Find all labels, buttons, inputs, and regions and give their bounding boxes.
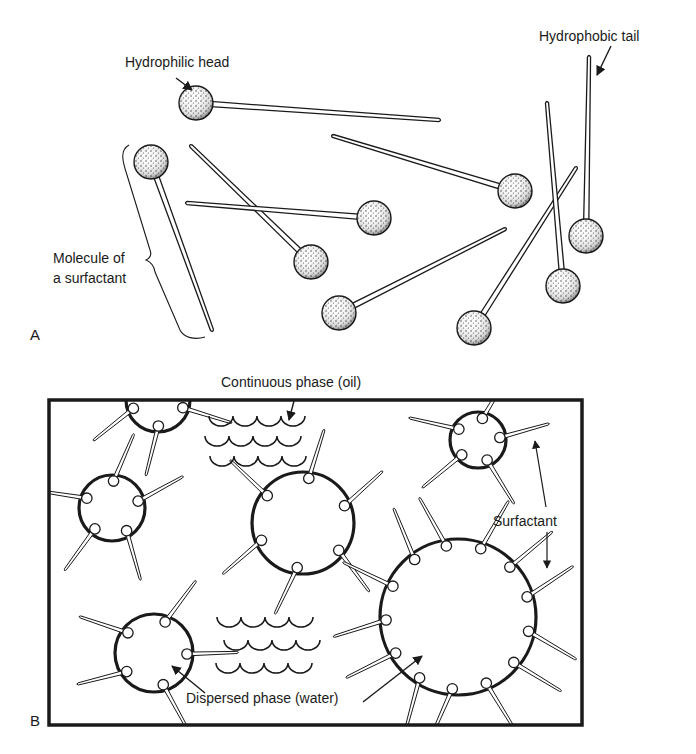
oil-wave-symbols-top	[205, 416, 306, 466]
hydrophobic-tail	[154, 175, 214, 331]
water-droplet	[222, 429, 382, 614]
surfactant-molecule	[64, 524, 100, 571]
hydrophobic-tail	[120, 333, 142, 376]
panel-a-molecules	[134, 56, 603, 345]
hydrophilic-head	[121, 526, 131, 536]
emulsion-interior	[36, 333, 577, 740]
hydrophilic-head	[133, 496, 143, 506]
surfactant-molecule	[179, 86, 440, 122]
hydrophilic-head	[390, 648, 400, 658]
panel-b-emulsion	[36, 333, 582, 740]
surfactant-arrow-up	[535, 441, 546, 507]
surfactant-molecule	[509, 657, 562, 691]
hydrophobic-tail	[211, 101, 441, 121]
hydrophobic-tail	[275, 571, 297, 614]
hydrophobic-tail	[175, 339, 206, 376]
surfactant-molecule	[334, 545, 370, 592]
hydrophobic-tail	[351, 228, 506, 309]
head-shading	[498, 174, 532, 208]
hydrophilic-head	[505, 562, 515, 572]
hydrophobic-tail	[167, 581, 196, 619]
hydrophilic-head	[523, 626, 533, 636]
hydrophilic-head	[123, 628, 133, 638]
hydrophilic-head	[82, 493, 92, 503]
hydrophilic-head	[256, 535, 266, 545]
hydrophilic-head	[178, 402, 188, 412]
head-shading	[569, 219, 603, 253]
panel-a-letter: A	[30, 326, 40, 343]
hydrophilic-head	[476, 543, 486, 553]
hydrophilic-head	[153, 421, 163, 431]
surfactant-molecule	[77, 666, 132, 685]
head-shading	[179, 86, 213, 120]
head-shading	[294, 245, 328, 279]
surfactant-emulsion-figure: Hydrophilic head Hydrophobic tail Molecu…	[0, 0, 696, 754]
panel-b-letter: B	[30, 712, 40, 729]
hydrophobic-tail	[419, 497, 446, 542]
dispersed-phase-label: Dispersed phase (water)	[186, 690, 339, 706]
hydrophobic-tail	[93, 410, 130, 441]
hydrophilic-head	[158, 679, 168, 689]
hydrophobic-tail	[584, 56, 591, 222]
head-shading	[546, 269, 580, 303]
hydrophilic-head	[441, 541, 451, 551]
hydrophobic-tail	[222, 542, 258, 574]
hydrophobic-tail	[230, 460, 265, 494]
hydrophobic-tail	[504, 423, 549, 438]
hydrophobic-tail	[333, 620, 382, 638]
surfactant-molecule	[168, 339, 206, 384]
hydrophobic-tail-arrow	[597, 46, 611, 75]
hydrophobic-tail	[142, 476, 184, 500]
water-droplet	[333, 497, 576, 739]
surfactant-molecule	[108, 434, 134, 487]
water-droplet	[409, 374, 550, 504]
hydrophobic-tail	[79, 616, 124, 633]
hydrophilic-head	[454, 424, 464, 434]
water-droplet	[93, 333, 232, 476]
surfactant-molecule	[275, 562, 303, 614]
hydrophilic-head	[168, 374, 178, 384]
hydrophobic-tail	[347, 471, 383, 504]
head-shading	[457, 311, 491, 345]
hydrophilic-head	[108, 476, 118, 486]
water-droplet	[77, 581, 239, 730]
continuous-phase-label: Continuous phase (oil)	[221, 374, 361, 390]
hydrophilic-head	[292, 562, 302, 572]
surfactant-molecule	[339, 471, 382, 511]
hydrophilic-head	[457, 450, 467, 460]
surfactant-molecule	[569, 56, 603, 253]
hydrophilic-head	[481, 678, 491, 688]
hydrophobic-tail	[64, 532, 93, 571]
surfactant-molecule	[346, 648, 401, 678]
hydrophobic-tail	[145, 430, 159, 476]
hydrophobic-tail	[343, 562, 389, 586]
surfactant-molecule	[505, 531, 553, 572]
hydrophobic-tail	[483, 374, 509, 415]
hydrophobic-tail	[186, 201, 360, 219]
hydrophilic-head	[522, 592, 532, 602]
surfactant-molecule	[222, 535, 266, 574]
hydrophilic-head	[182, 649, 192, 659]
hydrophilic-head-arrow	[176, 78, 192, 90]
molecule-label-line1: Molecule of	[53, 250, 125, 266]
hydrophilic-head	[160, 617, 170, 627]
hydrophobic-tail	[517, 664, 561, 692]
hydrophilic-head	[509, 657, 519, 667]
droplet-boundary	[252, 472, 354, 574]
oil-wave-symbols-bottom	[216, 617, 320, 673]
hydrophilic-head	[122, 666, 132, 676]
hydrophobic-tail	[393, 508, 414, 555]
head-shading	[134, 145, 168, 179]
hydrophobic-tail	[422, 457, 459, 488]
hydrophilic-head	[339, 501, 349, 511]
hydrophilic-head	[414, 673, 424, 683]
surfactant-molecule	[393, 508, 420, 565]
hydrophobic-tail	[190, 145, 302, 254]
hydrophobic-tail	[126, 535, 141, 580]
continuous-phase-arrow	[289, 401, 294, 420]
hydrophobic-tail	[430, 693, 452, 740]
surfactant-molecule	[120, 333, 148, 385]
hydrophilic-head	[381, 615, 391, 625]
hydrophilic-head	[334, 545, 344, 555]
head-shading	[322, 296, 356, 330]
